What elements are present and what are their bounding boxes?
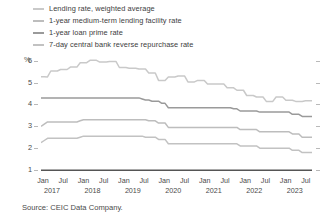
y-axis-tick-mark-right [316, 148, 320, 149]
x-axis-labels: Jan2017JulJan2018JulJan2019JulJan2020Jul… [0, 176, 335, 200]
legend-swatch-icon [33, 44, 44, 46]
y-axis-tick-mark [34, 126, 38, 127]
series-line [41, 136, 312, 152]
y-axis-tick-label: 6 [18, 57, 32, 65]
legend-item-lpr-1y: 1-year loan prime rate [33, 27, 333, 38]
chart-plot-region: % 123456 [0, 52, 335, 177]
y-axis-tick-label: 1 [18, 166, 32, 174]
x-axis-year-label: 2023 [280, 186, 310, 195]
x-axis-year-label: 2017 [37, 186, 67, 195]
legend-item-lending-weighted-avg: Lending rate, weighted average [33, 3, 333, 14]
legend-item-reverse-repo-7d: 7-day central bank reverse repurchase ra… [33, 39, 333, 50]
y-axis-tick-mark [34, 83, 38, 84]
legend-swatch-icon [33, 32, 44, 34]
y-axis-tick-mark-right [316, 104, 320, 105]
y-axis-tick-label: 2 [18, 144, 32, 152]
plot-area [41, 52, 312, 170]
y-axis-tick-mark-right [316, 126, 320, 127]
y-axis-tick-mark-right [316, 170, 320, 171]
x-axis-year-label: 2022 [239, 186, 269, 195]
x-axis-year-label: 2021 [199, 186, 229, 195]
y-axis-tick-mark [34, 170, 38, 171]
x-axis-year-label: 2020 [158, 186, 188, 195]
y-axis-tick-mark [34, 104, 38, 105]
x-axis-year-label: 2018 [77, 186, 107, 195]
series-line [41, 120, 312, 137]
legend-label: Lending rate, weighted average [49, 3, 155, 14]
legend-item-mlf-1y: 1-year medium-term lending facility rate [33, 15, 333, 26]
chart-legend: Lending rate, weighted average 1-year me… [33, 3, 333, 51]
series-line [41, 60, 312, 101]
series-lines [41, 52, 312, 170]
chart-figure: Lending rate, weighted average 1-year me… [0, 0, 335, 223]
legend-label: 7-day central bank reverse repurchase ra… [49, 39, 193, 50]
y-axis-tick-label: 3 [18, 122, 32, 130]
y-axis-tick-mark-right [316, 61, 320, 62]
y-axis-tick-mark-right [316, 83, 320, 84]
legend-swatch-icon [33, 20, 44, 22]
y-axis-tick-label: 5 [18, 79, 32, 87]
y-axis-tick-label: 4 [18, 100, 32, 108]
y-axis-tick-mark [34, 148, 38, 149]
y-axis-tick-mark [34, 61, 38, 62]
x-axis-year-label: 2019 [118, 186, 148, 195]
legend-label: 1-year loan prime rate [49, 27, 123, 38]
source-note: Source: CEIC Data Company. [22, 203, 123, 212]
x-axis-line [41, 170, 312, 171]
x-axis-month-label: Jul [293, 176, 319, 185]
legend-label: 1-year medium-term lending facility rate [49, 15, 182, 26]
legend-swatch-icon [33, 8, 44, 10]
